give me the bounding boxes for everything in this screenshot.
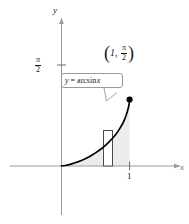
callout-leader-line — [104, 88, 117, 101]
representative-rectangle — [104, 131, 113, 167]
shaded-area-region — [62, 100, 130, 167]
point-coordinate-label: (1, π 2 ) — [104, 44, 134, 62]
callout-variable: x — [97, 76, 101, 85]
point-label-close-paren: ) — [128, 43, 134, 63]
equation-callout-text: y = arcsin x — [65, 77, 100, 85]
point-label-y-denominator: 2 — [121, 54, 127, 62]
y-axis-arrowhead — [59, 18, 64, 24]
callout-equals: = — [69, 76, 78, 85]
endpoint-marker — [127, 96, 133, 102]
x-axis-label: x — [180, 163, 184, 172]
point-label-y-fraction: π 2 — [121, 44, 127, 62]
figure-container: y x 1 π 2 (1, π 2 ) y = arcsin x — [0, 0, 189, 224]
y-tick-label-pi-over-2: π 2 — [35, 56, 41, 74]
pi-over-2-denominator: 2 — [35, 66, 41, 74]
y-axis-label: y — [53, 6, 57, 15]
point-label-comma: , — [115, 47, 120, 58]
callout-function-name: arcsin — [77, 76, 96, 85]
x-tick-label-1: 1 — [127, 172, 132, 181]
arcsin-area-plot — [0, 0, 189, 224]
pi-over-2-fraction: π 2 — [35, 56, 41, 74]
